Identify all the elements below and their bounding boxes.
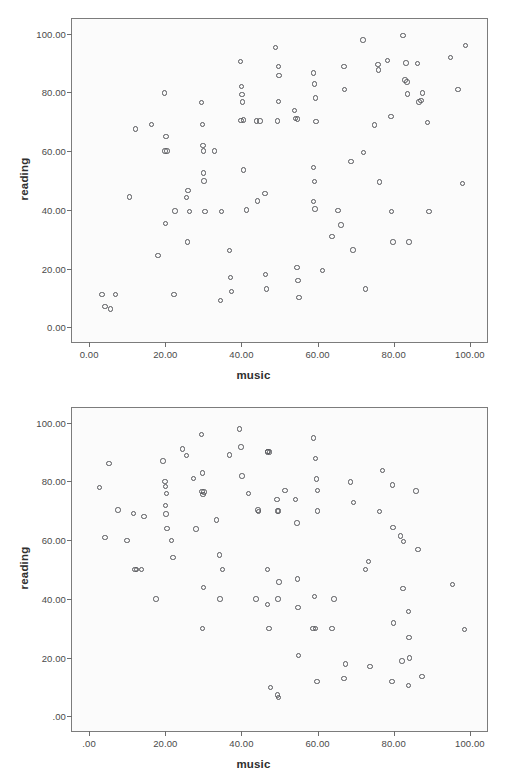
scatter-point xyxy=(275,508,280,513)
y-axis-tick-label: 0.00 xyxy=(47,322,66,333)
scatter-point xyxy=(274,497,279,502)
scatter-point xyxy=(311,435,316,440)
scatter-point xyxy=(160,458,165,463)
scatter-point xyxy=(253,596,258,601)
y-axis-tick-label: 40.00 xyxy=(42,204,66,215)
scatter-point xyxy=(311,165,316,170)
scatter-point xyxy=(134,567,139,572)
scatter-point xyxy=(219,209,224,214)
scatter-point xyxy=(406,239,411,244)
x-axis-tick-label: 20.00 xyxy=(153,349,177,360)
scatter-point xyxy=(238,444,243,449)
scatter-point xyxy=(406,683,411,688)
scatter-point xyxy=(265,567,270,572)
x-axis-tick xyxy=(89,342,90,347)
scatter-point xyxy=(218,298,223,303)
scatter-point xyxy=(164,491,169,496)
x-axis-tick-label: 60.00 xyxy=(305,738,329,749)
scatter-point xyxy=(450,582,455,587)
x-axis-tick-label: 20.00 xyxy=(153,738,177,749)
scatter-point xyxy=(420,90,425,95)
x-axis-tick-label: 0.00 xyxy=(80,349,99,360)
scatter-point xyxy=(185,188,190,193)
scatter-point xyxy=(348,479,353,484)
y-axis-title-2: reading xyxy=(18,538,30,598)
scatter-point xyxy=(314,476,319,481)
scatter-point xyxy=(162,90,167,95)
scatter-point xyxy=(361,150,366,155)
scatter-point xyxy=(191,476,196,481)
scatter-point xyxy=(341,676,346,681)
scatter-point xyxy=(276,99,281,104)
y-axis-tick-label: 20.00 xyxy=(42,263,66,274)
scatter-point xyxy=(388,114,393,119)
y-axis-tick xyxy=(67,481,72,482)
scatter-point xyxy=(124,538,129,543)
scatter-point xyxy=(313,119,318,124)
scatter-point xyxy=(320,268,325,273)
scatter-point xyxy=(294,520,299,525)
scatter-point xyxy=(296,295,301,300)
scatter-point xyxy=(228,275,233,280)
y-axis-title-1: reading xyxy=(18,149,30,209)
scatter-point xyxy=(312,206,317,211)
scatter-point xyxy=(217,596,222,601)
scatter-point xyxy=(212,148,217,153)
scatter-point xyxy=(398,533,403,538)
scatter-point xyxy=(184,453,189,458)
scatter-point xyxy=(237,426,242,431)
scatter-point xyxy=(295,576,300,581)
scatter-point xyxy=(295,278,300,283)
plot-area-2: .0020.0040.0060.0080.00100.00.0020.0040.… xyxy=(71,407,488,732)
scatter-point xyxy=(406,635,411,640)
scatter-point xyxy=(295,605,300,610)
y-axis-tick-label: 100.00 xyxy=(36,28,66,39)
scatter-point xyxy=(97,485,102,490)
scatter-point xyxy=(314,679,319,684)
scatter-point xyxy=(315,488,320,493)
y-axis-tick xyxy=(67,92,72,93)
scatter-point xyxy=(418,98,423,103)
scatter-point xyxy=(351,500,356,505)
scatter-point xyxy=(201,585,206,590)
scatter-point xyxy=(405,91,410,96)
y-axis-tick xyxy=(67,151,72,152)
x-axis-tick xyxy=(241,342,242,347)
scatter-point xyxy=(163,503,168,508)
scatter-point xyxy=(241,117,246,122)
scatter-point xyxy=(390,525,395,530)
y-axis-tick-label: 80.00 xyxy=(42,476,66,487)
plot-area-1: 0.0020.0040.0060.0080.00100.000.0020.004… xyxy=(71,18,488,343)
scatter-point xyxy=(200,143,205,148)
y-axis-tick xyxy=(67,210,72,211)
scatter-point xyxy=(102,535,107,540)
scatter-point xyxy=(255,198,260,203)
scatter-point xyxy=(407,655,412,660)
scatter-point xyxy=(201,489,206,494)
scatter-point xyxy=(363,567,368,572)
x-axis-tick xyxy=(89,731,90,736)
y-axis-tick-label: 60.00 xyxy=(42,535,66,546)
scatter-point xyxy=(342,87,347,92)
x-axis-tick xyxy=(318,342,319,347)
scatter-point xyxy=(214,517,219,522)
scatter-point xyxy=(367,664,372,669)
scatter-point xyxy=(239,92,244,97)
x-axis-tick xyxy=(241,731,242,736)
y-axis-tick-label: .00 xyxy=(52,711,66,722)
scatter-point xyxy=(127,194,132,199)
scatter-point xyxy=(406,609,411,614)
y-axis-tick xyxy=(67,269,72,270)
scatter-point xyxy=(171,292,176,297)
scatter-point xyxy=(331,596,336,601)
scatter-point xyxy=(276,64,281,69)
x-axis-tick-label: 60.00 xyxy=(305,349,329,360)
scatter-point xyxy=(400,33,405,38)
y-axis-tick xyxy=(67,540,72,541)
scatter-point xyxy=(199,100,204,105)
scatter-point xyxy=(404,79,409,84)
scatter-point xyxy=(390,239,395,244)
scatter-point xyxy=(275,118,280,123)
x-axis-tick-label: 100.00 xyxy=(455,738,485,749)
scatter-figure-1: 0.0020.0040.0060.0080.00100.000.0020.004… xyxy=(0,0,507,389)
